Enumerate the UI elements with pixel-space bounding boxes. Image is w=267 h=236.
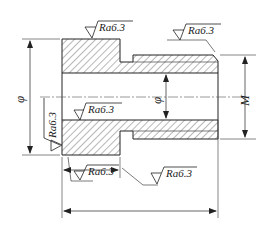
upper-wall-section	[62, 39, 218, 73]
svg-text:Ra6.3: Ra6.3	[98, 21, 125, 33]
roughness-symbol-bottom-left: Ra6.3	[68, 157, 119, 181]
svg-text:Ra6.3: Ra6.3	[187, 24, 214, 36]
roughness-symbol-bore: Ra6.3	[74, 103, 122, 120]
roughness-symbol-top-flange: Ra6.3	[85, 21, 133, 38]
drawing-canvas: φ φ M Ra6.3 Ra6.3 Ra6.3 Ra6.3	[0, 0, 267, 236]
roughness-symbol-chamfer: Ra6.3	[167, 24, 221, 52]
thread-label: M	[237, 94, 252, 107]
svg-text:Ra6.3: Ra6.3	[87, 165, 114, 177]
svg-text:Ra6.3: Ra6.3	[46, 112, 58, 139]
technical-drawing: φ φ M Ra6.3 Ra6.3 Ra6.3 Ra6.3	[0, 0, 267, 236]
outer-dia-label: φ	[12, 96, 27, 103]
svg-text:Ra6.3: Ra6.3	[87, 103, 114, 115]
roughness-symbol-left-face: Ra6.3	[44, 98, 62, 151]
roughness-symbol-bottom-step: Ra6.3	[122, 167, 197, 185]
svg-text:Ra6.3: Ra6.3	[165, 167, 192, 179]
bore-dia-label: φ	[149, 97, 164, 104]
lower-wall-section	[62, 120, 218, 155]
